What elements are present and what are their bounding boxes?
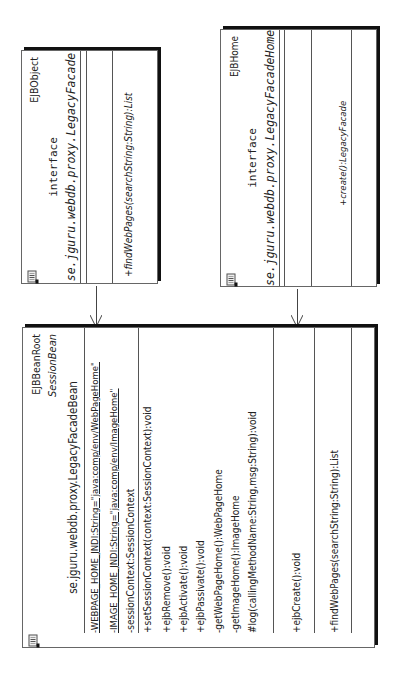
divider bbox=[314, 328, 315, 633]
class-icon bbox=[28, 271, 37, 283]
class-icon bbox=[227, 274, 236, 286]
divider bbox=[351, 30, 352, 286]
divider bbox=[311, 30, 312, 286]
operation-item[interactable]: -getWebPageHome():WebPageHome bbox=[213, 469, 225, 633]
operation-item[interactable]: +create():LegacyFacade bbox=[337, 101, 349, 206]
ejb-home-class[interactable]: EJBHome interface se.jguru.webdb.proxy.L… bbox=[220, 29, 377, 287]
operation-item[interactable]: +ejbPassivate():void bbox=[195, 540, 207, 633]
session-bean-box: EJBBeanRoot SessionBean se.jguru.webdb.p… bbox=[22, 327, 375, 648]
operation-item[interactable]: +setSessionContext(context:SessionContex… bbox=[142, 407, 154, 633]
session-bean-class[interactable]: EJBBeanRoot SessionBean se.jguru.webdb.p… bbox=[22, 327, 375, 648]
create-operation-item[interactable]: +ejbCreate():void bbox=[291, 553, 303, 633]
attribute-item[interactable]: -IMAGE_HOME_JNDI:String="java:comp/env/I… bbox=[108, 388, 120, 633]
ejb-object-class[interactable]: EJBObject interface se.jguru.webdb.proxy… bbox=[21, 50, 158, 284]
divider bbox=[84, 328, 85, 633]
divider bbox=[273, 328, 274, 633]
stereotype-label: EJBObject bbox=[28, 57, 40, 103]
operation-item[interactable]: +findWebPages(searchString:String):List bbox=[123, 93, 135, 277]
attribute-item[interactable]: -WEBPAGE_HOME_JNDI:String="java:comp/env… bbox=[89, 362, 101, 633]
kind-label: interface bbox=[247, 30, 259, 286]
class-name[interactable]: se.jguru.webdb.proxy.LegacyFacadeBean bbox=[67, 328, 79, 647]
class-name[interactable]: se.jguru.webdb.proxy.LegacyFacadeHome bbox=[264, 30, 276, 286]
kind-label: SessionBean bbox=[47, 334, 59, 397]
stereotype-label: EJBHome bbox=[229, 36, 241, 77]
operation-item[interactable]: +ejbRemove():void bbox=[161, 546, 173, 633]
divider bbox=[351, 328, 352, 633]
business-operation-item[interactable]: +findWebPages(searchString:String):List bbox=[329, 450, 341, 633]
ejb-object-box: EJBObject interface se.jguru.webdb.proxy… bbox=[21, 50, 158, 284]
divider bbox=[138, 328, 139, 633]
kind-label: interface bbox=[48, 51, 60, 283]
divider bbox=[284, 30, 285, 286]
class-icon bbox=[29, 635, 38, 647]
divider bbox=[279, 30, 280, 286]
stereotype-label: EJBBeanRoot bbox=[30, 334, 42, 395]
ejb-home-box: EJBHome interface se.jguru.webdb.proxy.L… bbox=[220, 29, 377, 287]
class-name[interactable]: se.jguru.webdb.proxy.LegacyFacade bbox=[65, 51, 77, 283]
divider bbox=[112, 51, 113, 283]
operation-item[interactable]: +ejbActivate():void bbox=[178, 546, 190, 633]
attribute-item[interactable]: -sessionContext:SessionContext bbox=[125, 489, 137, 633]
operation-item[interactable]: -getImageHome():ImageHome bbox=[230, 495, 242, 633]
divider bbox=[80, 51, 81, 283]
divider bbox=[86, 51, 87, 283]
operation-item[interactable]: #log(callingMethodName:String,msg:String… bbox=[247, 411, 259, 633]
